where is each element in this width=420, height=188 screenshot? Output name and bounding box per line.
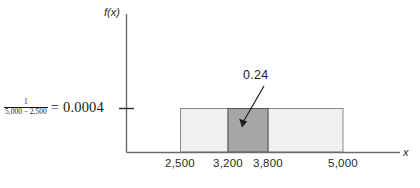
fraction-numerator: 1 — [22, 98, 30, 107]
y-axis-label: f(x) — [104, 6, 120, 18]
shaded-probability-region — [228, 109, 268, 153]
density-region-right — [268, 109, 343, 153]
fraction-denominator: 5,000 − 2,500 — [4, 108, 48, 117]
uniform-distribution-figure: f(x) x 1 5,000 − 2,500 = 0.0004 0.24 2,5… — [0, 0, 420, 188]
x-tick-label-2500: 2,500 — [165, 157, 195, 169]
density-equals-value: = 0.0004 — [51, 99, 104, 116]
density-value-label: 1 5,000 − 2,500 = 0.0004 — [4, 98, 104, 116]
density-fraction: 1 5,000 − 2,500 — [4, 98, 48, 116]
x-tick-label-3200: 3,200 — [213, 157, 243, 169]
x-tick-label-3800: 3,800 — [253, 157, 283, 169]
density-region-left — [181, 109, 229, 153]
x-axis-label: x — [403, 146, 409, 158]
probability-annotation-label: 0.24 — [243, 68, 269, 82]
x-tick-label-5000: 5,000 — [328, 157, 358, 169]
